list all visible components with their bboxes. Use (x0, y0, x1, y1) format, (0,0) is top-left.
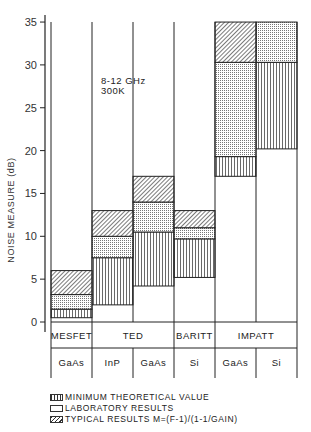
legend-item-lab: LABORATORY RESULTS (50, 403, 238, 414)
bar-segment (215, 62, 256, 156)
group-label: TED (123, 330, 144, 341)
y-tick-label: 30 (25, 59, 37, 71)
group-label: MESFET (51, 330, 93, 341)
temperature-annotation: 300K (101, 85, 125, 96)
y-tick-label: 10 (25, 230, 37, 242)
material-label: Si (190, 357, 199, 368)
bar-segment (174, 211, 215, 228)
material-label: InP (105, 357, 121, 368)
legend-item-min: MINIMUM THEORETICAL VALUE (50, 392, 238, 403)
bar-segment (174, 239, 215, 278)
material-label: GaAs (223, 357, 249, 368)
bar-segment (256, 62, 297, 149)
y-tick-label: 20 (25, 145, 37, 157)
bar-segment (51, 271, 92, 295)
bar-segment (133, 232, 174, 286)
group-label: BARITT (176, 330, 213, 341)
vertical-lines-swatch-icon (50, 394, 63, 401)
y-axis-label: NOISE MEASURE (dB) (6, 157, 16, 262)
dots-swatch-icon (50, 405, 63, 412)
group-label: IMPATT (238, 330, 274, 341)
bar-segment (256, 22, 297, 62)
bar-segment (133, 202, 174, 232)
bar-segment (51, 295, 92, 310)
bar-segment (215, 22, 256, 62)
y-tick-label: 5 (31, 273, 37, 285)
bar-segment (92, 211, 133, 237)
legend: MINIMUM THEORETICAL VALUE LABORATORY RES… (50, 392, 238, 425)
material-label: Si (272, 357, 281, 368)
y-tick-label: 25 (25, 102, 37, 114)
legend-item-typ: TYPICAL RESULTS M=(F-1)/(1-1/GAIN) (50, 414, 238, 425)
category-table: MESFETTEDBARITTIMPATTGaAsInPGaAsSiGaAsSi (51, 322, 297, 378)
y-axis: 05101520253035 NOISE MEASURE (dB) (6, 15, 45, 332)
material-label: GaAs (141, 357, 167, 368)
y-tick-label: 0 (31, 316, 37, 328)
bar-segment (92, 236, 133, 257)
noise-measure-chart: 05101520253035 NOISE MEASURE (dB) 8-12 G… (0, 0, 311, 432)
y-tick-label: 35 (25, 16, 37, 28)
bar-segment (215, 157, 256, 177)
bar-segment (92, 258, 133, 305)
bar-segment (51, 309, 92, 318)
bar-segment (133, 176, 174, 202)
hatch-swatch-icon (50, 416, 63, 423)
material-label: GaAs (59, 357, 85, 368)
bar-segment (174, 228, 215, 239)
y-tick-label: 15 (25, 187, 37, 199)
